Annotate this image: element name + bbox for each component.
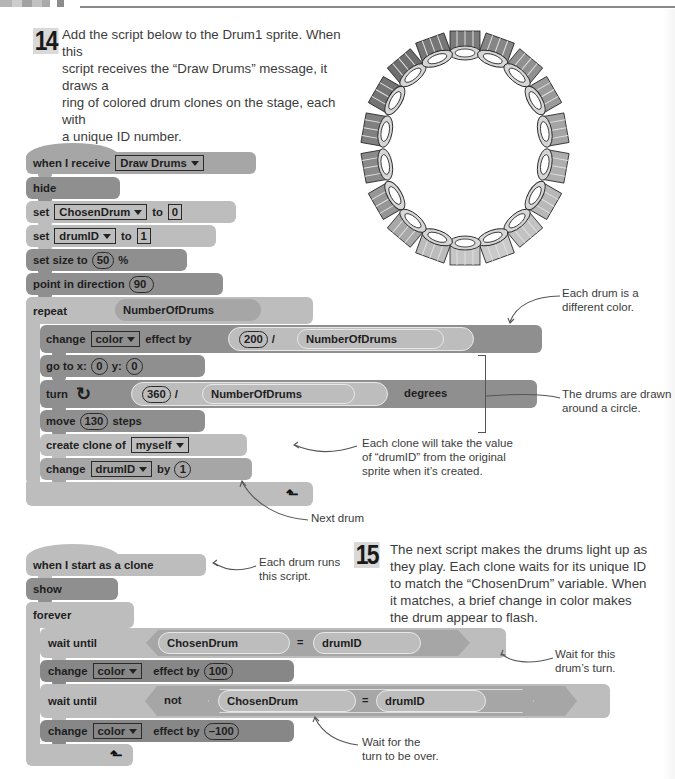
- dropdown-arrow-icon: [127, 337, 135, 342]
- when-i-receive-block[interactable]: when I receive Draw Drums: [26, 152, 256, 174]
- header-rule: [80, 6, 675, 8]
- callout-wait-over: Wait for the turn to be over.: [362, 735, 439, 763]
- turn-clockwise-icon: ↻: [76, 385, 91, 403]
- variable-dropdown[interactable]: drumID: [54, 228, 116, 244]
- drum-ring-image: [340, 18, 580, 274]
- equals-sign: =: [362, 694, 368, 706]
- effect-dropdown[interactable]: color: [93, 663, 143, 679]
- header-swatch: [42, 0, 50, 7]
- step-number-14: 14: [33, 28, 59, 54]
- repeat-block-bottom[interactable]: ⬑: [26, 482, 313, 506]
- change-value-input[interactable]: 1: [174, 461, 191, 478]
- message-dropdown[interactable]: Draw Drums: [115, 155, 204, 171]
- header-swatch: [57, 0, 64, 7]
- chosendrum-reporter[interactable]: ChosenDrum: [158, 632, 290, 654]
- step-number-15: 15: [354, 542, 380, 568]
- loop-arrow-icon: ⬑: [110, 746, 123, 764]
- dropdown-arrow-icon: [176, 443, 184, 448]
- effect-dropdown[interactable]: color: [91, 331, 141, 347]
- clone-target-dropdown[interactable]: myself: [131, 437, 189, 453]
- header-swatch: [22, 0, 32, 7]
- size-input[interactable]: 50: [92, 252, 115, 269]
- effect-dropdown[interactable]: color: [93, 723, 143, 739]
- hide-block[interactable]: hide: [26, 177, 120, 199]
- callout-drawn-circle: The drums are drawn around a circle.: [562, 387, 671, 415]
- callout-clone-value: Each clone will take the value of “drumI…: [362, 436, 513, 478]
- dropdown-arrow-icon: [103, 234, 111, 239]
- numerator-input[interactable]: 360: [142, 386, 171, 403]
- dropdown-arrow-icon: [129, 729, 137, 734]
- direction-dropdown[interactable]: 90: [129, 276, 155, 293]
- numberofdrums-reporter[interactable]: NumberOfDrums: [297, 329, 444, 349]
- dropdown-arrow-icon: [139, 467, 147, 472]
- header-swatch: [0, 0, 12, 7]
- degrees-label: degrees: [404, 387, 447, 399]
- create-clone-block[interactable]: create clone of myself: [40, 434, 247, 456]
- value-input[interactable]: 1: [137, 228, 151, 244]
- header-swatch: [12, 0, 22, 7]
- variable-dropdown[interactable]: drumID: [91, 461, 153, 477]
- repeat-block-arm[interactable]: [26, 297, 40, 485]
- x-input[interactable]: 0: [91, 358, 108, 375]
- point-direction-block[interactable]: point in direction 90: [26, 273, 223, 295]
- change-color-effect-block-2[interactable]: change color effect by –100: [40, 720, 294, 742]
- numerator-input[interactable]: 200: [239, 331, 268, 348]
- not-label: not: [164, 694, 182, 706]
- callout-next-drum: Next drum: [311, 511, 364, 525]
- drumid-reporter[interactable]: drumID: [376, 690, 486, 712]
- loop-arrow-icon: ⬑: [286, 485, 299, 503]
- dropdown-arrow-icon: [191, 161, 199, 166]
- show-block[interactable]: show: [26, 578, 118, 600]
- numberofdrums-reporter[interactable]: NumberOfDrums: [115, 299, 261, 321]
- effect-value-input[interactable]: 100: [204, 663, 233, 680]
- forever-block-bottom[interactable]: ⬑: [26, 744, 133, 766]
- steps-input[interactable]: 130: [80, 413, 109, 430]
- go-to-xy-block[interactable]: go to x: 0 y: 0: [40, 355, 205, 377]
- numberofdrums-reporter[interactable]: NumberOfDrums: [202, 384, 355, 404]
- step14-text: Add the script below to the Drum1 sprite…: [62, 26, 352, 145]
- set-chosendrum-block[interactable]: set ChosenDrum to 0: [26, 201, 236, 223]
- bracket-drawn-circle: [478, 355, 486, 433]
- callout-wait-turn: Wait for this drum’s turn.: [555, 647, 616, 675]
- when-start-as-clone-block[interactable]: when I start as a clone: [26, 554, 206, 576]
- value-input[interactable]: 0: [168, 204, 182, 220]
- chosendrum-reporter[interactable]: ChosenDrum: [218, 690, 356, 712]
- header-swatch: [32, 0, 42, 7]
- effect-value-input[interactable]: –100: [204, 723, 239, 740]
- change-drumid-block[interactable]: change drumID by 1: [40, 458, 252, 480]
- callout-each-drum-runs: Each drum runs this script.: [259, 555, 340, 583]
- dropdown-arrow-icon: [129, 669, 137, 674]
- variable-dropdown[interactable]: ChosenDrum: [54, 204, 147, 220]
- set-drumid-block[interactable]: set drumID to 1: [26, 225, 216, 247]
- step15-text: The next script makes the drums light up…: [390, 541, 670, 626]
- equals-sign: =: [297, 636, 303, 648]
- callout-different-color: Each drum is a different color.: [562, 286, 639, 314]
- y-input[interactable]: 0: [126, 358, 143, 375]
- move-steps-block[interactable]: move 130 steps: [40, 410, 205, 432]
- forever-block[interactable]: forever: [26, 602, 134, 628]
- change-color-effect-block-1[interactable]: change color effect by 100: [40, 660, 294, 682]
- page-header-bar: [0, 0, 675, 9]
- set-size-block[interactable]: set size to 50 %: [26, 249, 187, 271]
- dropdown-arrow-icon: [134, 210, 142, 215]
- drumid-reporter[interactable]: drumID: [313, 632, 421, 654]
